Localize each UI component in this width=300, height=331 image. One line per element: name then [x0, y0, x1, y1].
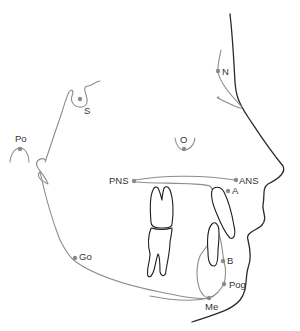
landmark-pog: Pog	[222, 279, 246, 290]
palatal-plane-lower	[135, 182, 214, 206]
landmark-label-n: N	[222, 66, 229, 77]
sella-turcica	[45, 81, 100, 162]
landmark-label-me: Me	[205, 301, 218, 312]
upper-molar	[150, 187, 173, 228]
landmark-label-pns: PNS	[109, 175, 129, 186]
landmark-label-po: Po	[15, 133, 27, 144]
landmark-pns: PNS	[109, 175, 136, 186]
landmark-label-go: Go	[79, 251, 92, 262]
landmark-go: Go	[73, 251, 92, 262]
palatal-plane-upper	[135, 176, 235, 180]
landmark-label-b: B	[227, 255, 233, 266]
landmark-a: A	[226, 185, 239, 196]
landmark-label-pog: Pog	[229, 279, 246, 290]
landmark-s: S	[78, 97, 91, 116]
lower-molar	[147, 228, 172, 277]
lower-incisor	[208, 223, 220, 266]
cephalometric-diagram: S N Po O PNS ANS A Go B Pog Me	[0, 0, 300, 331]
landmark-label-ans: ANS	[239, 175, 259, 186]
landmark-label-a: A	[232, 185, 239, 196]
landmark-label-s: S	[84, 105, 90, 116]
landmark-me: Me	[205, 296, 218, 312]
landmark-label-o: O	[180, 134, 187, 145]
landmark-o: O	[180, 134, 187, 151]
soft-tissue-profile	[192, 14, 284, 322]
